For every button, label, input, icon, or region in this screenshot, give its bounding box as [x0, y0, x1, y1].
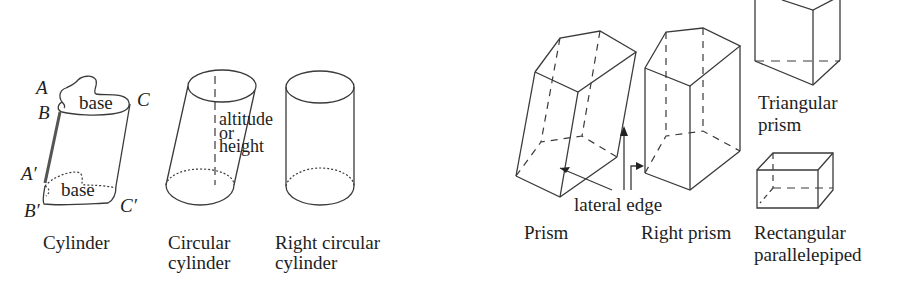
rectangular-parallelepiped-caption-line2: parallelepiped — [754, 244, 862, 265]
right-circular-cylinder-caption-line2: cylinder — [275, 252, 337, 273]
right-prism-figure — [645, 28, 740, 190]
triangular-prism-caption-line2: prism — [758, 114, 801, 135]
point-label-c-prime: C′ — [120, 195, 137, 216]
rectangular-parallelepiped-caption-line1: Rectangular — [754, 222, 846, 243]
point-label-a-prime: A′ — [21, 163, 37, 184]
top-base-label: base — [79, 92, 113, 113]
point-label-b: B — [38, 102, 50, 123]
bottom-base-label: base — [61, 179, 95, 200]
circular-cylinder-caption-line1: Circular — [168, 232, 230, 253]
lateral-edge-label: lateral edge — [574, 194, 662, 215]
point-label-c: C — [137, 89, 150, 110]
right-prism-caption: Right prism — [641, 222, 731, 243]
point-label-a: A — [36, 77, 48, 98]
height-label: height — [219, 139, 264, 154]
prism-figure — [516, 31, 644, 197]
prism-caption: Prism — [524, 222, 568, 243]
circular-cylinder-caption-line2: cylinder — [168, 252, 230, 273]
triangular-prism-caption-line1: Triangular — [758, 92, 838, 113]
right-circular-cylinder-figure — [286, 71, 354, 205]
right-circular-cylinder-caption-line1: Right circular — [275, 232, 380, 253]
rectangular-parallelepiped-figure — [757, 153, 833, 208]
point-label-b-prime: B′ — [24, 200, 40, 221]
triangular-prism-figure — [755, 0, 840, 85]
cylinder-caption: Cylinder — [43, 232, 110, 253]
